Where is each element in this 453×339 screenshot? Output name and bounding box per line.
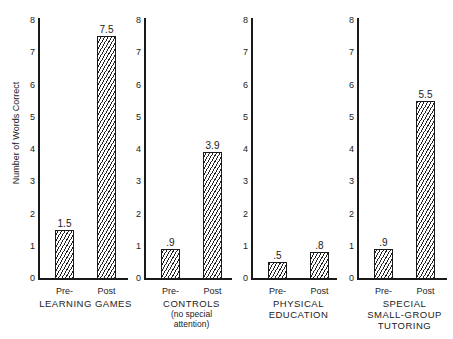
bar-pre — [55, 230, 74, 279]
y-tick-label: 6 — [131, 80, 141, 90]
bar-value-label: .5 — [258, 250, 298, 261]
category-pre: Pre- — [364, 286, 404, 296]
y-tick-label: 4 — [238, 144, 248, 154]
y-tick-label: 8 — [344, 15, 354, 25]
bar-post — [203, 152, 222, 279]
y-tick-label: 8 — [238, 15, 248, 25]
y-axis-line — [144, 18, 146, 279]
y-tick-label: 5 — [25, 112, 35, 122]
y-tick-label: 7 — [238, 47, 248, 57]
y-tick-label: 3 — [238, 176, 248, 186]
group-label: CONTROLS — [137, 298, 247, 309]
bar-post — [416, 101, 435, 279]
y-tick-label: 1 — [25, 241, 35, 251]
y-axis-label: Number of Words Correct — [11, 63, 21, 203]
y-tick-label: 0 — [238, 273, 248, 283]
category-post: Post — [87, 286, 127, 296]
bar-value-label: .8 — [300, 240, 340, 251]
category-pre: Pre- — [45, 286, 85, 296]
y-axis-line — [38, 18, 40, 279]
y-tick-label: 1 — [238, 241, 248, 251]
y-tick-label: 7 — [25, 47, 35, 57]
group-subtitle: (no special — [142, 309, 242, 319]
y-tick-label: 0 — [25, 273, 35, 283]
y-axis-line — [357, 18, 359, 279]
bar-value-label: .9 — [151, 237, 191, 248]
category-post: Post — [406, 286, 446, 296]
y-tick-label: 8 — [131, 15, 141, 25]
bar-pre — [374, 249, 393, 279]
group-label: EDUCATION — [244, 309, 354, 320]
y-tick-label: 8 — [25, 15, 35, 25]
y-tick-label: 6 — [25, 80, 35, 90]
y-tick-label: 2 — [238, 209, 248, 219]
y-tick-label: 2 — [25, 209, 35, 219]
y-tick-label: 1 — [131, 241, 141, 251]
y-tick-label: 4 — [344, 144, 354, 154]
category-post: Post — [193, 286, 233, 296]
y-tick-label: 6 — [238, 80, 248, 90]
y-tick-label: 4 — [25, 144, 35, 154]
bar-value-label: 7.5 — [87, 24, 127, 35]
y-tick-label: 5 — [131, 112, 141, 122]
category-pre: Pre- — [258, 286, 298, 296]
y-tick-label: 1 — [344, 241, 354, 251]
bar-value-label: 3.9 — [193, 140, 233, 151]
group-label: LEARNING GAMES — [31, 298, 141, 309]
group-label: SPECIAL — [350, 298, 453, 309]
bar-post — [310, 252, 329, 279]
y-tick-label: 7 — [344, 47, 354, 57]
bar-value-label: .9 — [364, 237, 404, 248]
y-tick-label: 3 — [344, 176, 354, 186]
bar-pre — [268, 262, 287, 279]
group-label: SMALL-GROUP — [350, 309, 453, 320]
group-label: TUTORING — [350, 320, 453, 331]
group-label: PHYSICAL — [244, 298, 354, 309]
bar-post — [97, 36, 116, 279]
y-axis-line — [251, 18, 253, 279]
bar-pre — [161, 249, 180, 279]
category-post: Post — [300, 286, 340, 296]
y-tick-label: 0 — [344, 273, 354, 283]
y-tick-label: 6 — [344, 80, 354, 90]
chart: Number of Words Correct 0123456781.5Pre-… — [0, 0, 453, 339]
y-tick-label: 3 — [25, 176, 35, 186]
y-tick-label: 5 — [344, 112, 354, 122]
y-tick-label: 4 — [131, 144, 141, 154]
y-tick-label: 5 — [238, 112, 248, 122]
y-tick-label: 2 — [131, 209, 141, 219]
y-tick-label: 2 — [344, 209, 354, 219]
category-pre: Pre- — [151, 286, 191, 296]
y-tick-label: 7 — [131, 47, 141, 57]
bar-value-label: 1.5 — [45, 218, 85, 229]
y-tick-label: 0 — [131, 273, 141, 283]
y-tick-label: 3 — [131, 176, 141, 186]
bar-value-label: 5.5 — [406, 89, 446, 100]
group-subtitle: attention) — [142, 319, 242, 329]
